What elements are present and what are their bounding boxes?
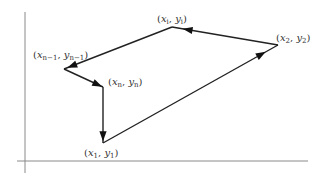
vertex-label-vi: (xi, yi)	[157, 13, 187, 26]
vertex-label-vn: (xn, yn)	[108, 76, 143, 89]
polygon-diagram: (x1, y1) (x2, y2) (xi, yi) (xn−1, yn−1) …	[0, 0, 323, 180]
arrowhead-icon	[183, 27, 193, 34]
arrowhead-icon	[99, 131, 106, 141]
arrowhead-icon	[255, 52, 265, 60]
vertex-label-v2: (x2, y2)	[276, 32, 311, 45]
edge-v1-to-v2	[103, 45, 278, 143]
vertex-label-vn-minus-1: (xn−1, yn−1)	[33, 49, 88, 62]
arrowheads-group	[67, 27, 266, 141]
edge-vi-to-vn1	[64, 27, 172, 69]
arrowhead-icon	[92, 79, 103, 86]
vertex-label-v1: (x1, y1)	[84, 147, 119, 160]
